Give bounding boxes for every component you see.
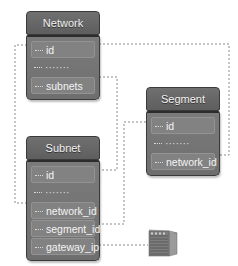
connector-tick	[35, 50, 43, 51]
field-segment-network-id: network_id	[151, 153, 215, 170]
connector-tick	[35, 86, 43, 87]
field-label: subnets	[46, 80, 83, 92]
field-subnet-segment-id: segment_id	[31, 220, 95, 237]
entity-segment-title: Segment	[146, 87, 220, 111]
connector-tick	[155, 126, 163, 127]
connector-tick	[34, 67, 42, 68]
link-network-subnets-to-subnet-id	[99, 77, 117, 170]
connector-tick	[35, 229, 43, 230]
field-subnet-gateway-ip: gateway_ip	[31, 238, 95, 255]
field-label: ·······	[165, 137, 189, 149]
entity-subnet-fields: id ······· network_id segment_id gateway…	[26, 160, 100, 261]
entity-network: Network id ······· subnets	[26, 11, 100, 100]
field-network-id: id	[31, 41, 95, 58]
field-label: ·······	[45, 186, 69, 198]
field-label: network_id	[46, 205, 97, 217]
connector-tick	[35, 175, 43, 176]
field-label: gateway_ip	[46, 241, 99, 253]
er-diagram: Network id ······· subnets Segment id	[0, 0, 238, 266]
field-label: id	[46, 169, 54, 181]
field-label: segment_id	[46, 223, 100, 235]
server-icon	[147, 227, 179, 257]
field-subnet-id: id	[31, 166, 95, 183]
entity-network-title: Network	[26, 11, 100, 35]
entity-network-fields: id ······· subnets	[26, 35, 100, 100]
field-label: network_id	[166, 156, 217, 168]
connector-tick	[35, 211, 43, 212]
field-label: id	[46, 44, 54, 56]
entity-subnet-title: Subnet	[26, 136, 100, 160]
field-subnet-ellipsis: ·······	[31, 184, 95, 201]
field-segment-id: id	[151, 117, 215, 134]
field-subnet-network-id: network_id	[31, 202, 95, 219]
connector-tick	[155, 162, 163, 163]
connector-tick	[35, 247, 43, 248]
field-segment-ellipsis: ·······	[151, 135, 215, 152]
connector-tick	[154, 143, 162, 144]
link-segment-id-to-subnet-segment-id	[99, 122, 150, 224]
field-label: ·······	[45, 61, 69, 73]
entity-subnet: Subnet id ······· network_id segment_id …	[26, 136, 100, 261]
entity-segment-fields: id ······· network_id	[146, 111, 220, 176]
entity-segment: Segment id ······· network_id	[146, 87, 220, 176]
field-network-subnets: subnets	[31, 77, 95, 94]
field-network-ellipsis: ·······	[31, 59, 95, 76]
field-label: id	[166, 120, 174, 132]
connector-tick	[34, 192, 42, 193]
